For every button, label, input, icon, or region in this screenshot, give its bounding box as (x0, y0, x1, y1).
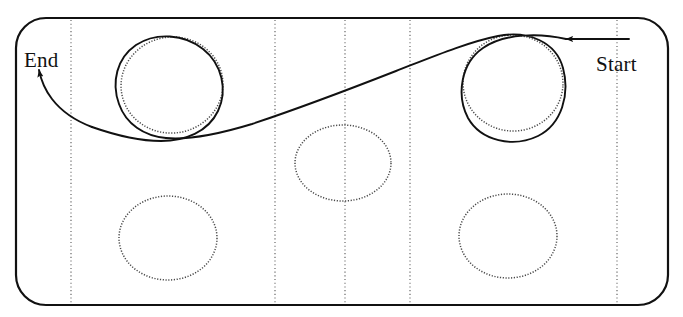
path-right-loop-and-descent (166, 34, 566, 141)
start-label: Start (596, 52, 637, 77)
end-arrow (39, 70, 92, 127)
end-label: End (24, 48, 58, 73)
diagram-canvas: End Start (0, 0, 683, 317)
grid-lines (71, 20, 617, 304)
path-left-loop (92, 36, 223, 141)
trajectory-figure (0, 0, 683, 317)
obstacle-bottom-left (119, 196, 217, 280)
arena-boundary (16, 18, 668, 305)
obstacle-bottom-right (459, 194, 557, 278)
obstacles (115, 30, 566, 280)
obstacle-center (295, 125, 391, 201)
